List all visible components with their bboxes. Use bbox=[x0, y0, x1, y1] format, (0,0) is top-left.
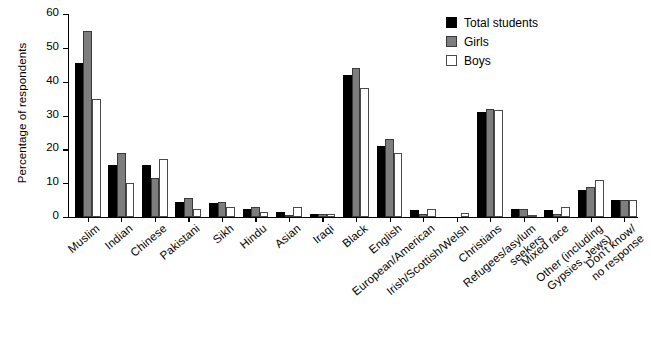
bar-group bbox=[377, 14, 403, 217]
bar-girls bbox=[385, 139, 394, 217]
bar-total bbox=[544, 210, 553, 217]
bar-total bbox=[477, 112, 486, 217]
bar-total bbox=[578, 190, 587, 217]
bar-boys bbox=[528, 215, 537, 217]
bar-total bbox=[243, 209, 252, 217]
legend-item[interactable]: Total students bbox=[446, 14, 636, 31]
bar-chart: Percentage of respondents 0102030405060 … bbox=[0, 0, 651, 339]
bar-boys bbox=[92, 99, 101, 217]
bar-boys bbox=[226, 207, 235, 217]
bar-boys bbox=[193, 209, 202, 217]
bar-group bbox=[310, 14, 336, 217]
bar-group bbox=[75, 14, 101, 217]
y-tick: 0 bbox=[63, 217, 68, 218]
legend-swatch-girls bbox=[446, 36, 457, 47]
bar-total bbox=[75, 63, 84, 217]
legend-label: Girls bbox=[464, 35, 489, 49]
legend-swatch-boys bbox=[446, 55, 457, 66]
bar-total bbox=[209, 203, 218, 217]
bar-boys bbox=[461, 213, 470, 217]
bar-boys bbox=[427, 209, 436, 217]
bar-boys bbox=[126, 183, 135, 217]
x-axis-line bbox=[68, 217, 638, 218]
bar-group bbox=[142, 14, 168, 217]
bar-girls bbox=[620, 200, 629, 217]
y-axis-title: Percentage of respondents bbox=[16, 0, 34, 228]
bar-girls bbox=[519, 209, 528, 217]
y-tick-label: 0 bbox=[53, 209, 59, 221]
bar-total bbox=[142, 165, 151, 217]
bar-boys bbox=[159, 159, 168, 217]
bar-boys bbox=[394, 153, 403, 217]
y-tick-label: 30 bbox=[46, 108, 59, 120]
bar-girls bbox=[83, 31, 92, 217]
bar-girls bbox=[151, 178, 160, 217]
bar-group bbox=[209, 14, 235, 217]
bar-boys bbox=[595, 180, 604, 217]
bar-group bbox=[108, 14, 134, 217]
bar-total bbox=[377, 146, 386, 217]
bar-total bbox=[175, 202, 184, 217]
bar-boys bbox=[327, 214, 336, 217]
bar-boys bbox=[260, 212, 269, 217]
y-tick-label: 40 bbox=[46, 74, 59, 86]
y-tick-label: 10 bbox=[46, 175, 59, 187]
bar-total bbox=[410, 210, 419, 217]
bar-group bbox=[343, 14, 369, 217]
bar-girls bbox=[218, 202, 227, 217]
bar-boys bbox=[629, 200, 638, 217]
bar-group bbox=[276, 14, 302, 217]
bar-girls bbox=[586, 187, 595, 217]
bar-boys bbox=[293, 207, 302, 217]
bar-total bbox=[343, 75, 352, 217]
bar-boys bbox=[561, 207, 570, 217]
legend-item[interactable]: Girls bbox=[446, 33, 636, 50]
legend-label: Boys bbox=[464, 54, 491, 68]
bar-girls bbox=[251, 207, 260, 217]
bar-group bbox=[175, 14, 201, 217]
bar-total bbox=[108, 165, 117, 217]
y-tick-label: 20 bbox=[46, 141, 59, 153]
bar-total bbox=[511, 209, 520, 217]
y-tick-label: 50 bbox=[46, 40, 59, 52]
legend-swatch-total bbox=[446, 17, 457, 28]
bar-boys bbox=[360, 88, 369, 217]
bar-group bbox=[410, 14, 436, 217]
bar-girls bbox=[352, 68, 361, 217]
bar-boys bbox=[494, 110, 503, 217]
legend-label: Total students bbox=[464, 16, 538, 30]
bar-total bbox=[611, 200, 620, 217]
bar-girls bbox=[117, 153, 126, 217]
bar-group bbox=[243, 14, 269, 217]
bar-girls bbox=[184, 198, 193, 217]
chart-legend: Total studentsGirlsBoys bbox=[446, 14, 636, 71]
bar-girls bbox=[486, 109, 495, 217]
legend-item[interactable]: Boys bbox=[446, 52, 636, 69]
y-tick-label: 60 bbox=[46, 6, 59, 18]
bar-total bbox=[310, 214, 319, 217]
bar-total bbox=[276, 212, 285, 217]
x-axis-labels: MuslimIndianChinesePakistaniSikhHinduAsi… bbox=[68, 222, 651, 339]
